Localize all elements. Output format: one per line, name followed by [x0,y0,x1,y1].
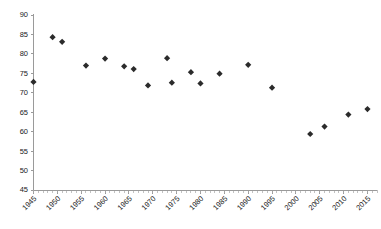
scatter-chart: 45505560657075808590 1945195019551960196… [0,0,381,229]
x-tick-label: 2010 [330,194,348,212]
data-point [307,131,313,137]
x-tick-label: 2005 [307,194,325,212]
x-tick-label: 1990 [235,194,253,212]
data-point [345,111,351,117]
x-tick-label: 2015 [354,194,372,212]
x-tick-label: 1965 [116,194,134,212]
data-point [59,39,65,45]
data-point [49,34,55,40]
data-markers [30,34,370,137]
data-point [83,62,89,68]
x-tick-label: 1985 [211,194,229,212]
y-tick-label: 60 [20,127,28,136]
y-tick-label: 50 [20,166,28,175]
x-tick-label: 1975 [163,194,181,212]
y-tick-label: 70 [20,88,28,97]
x-tick-label: 1960 [92,194,110,212]
data-point [102,55,108,61]
data-point [131,66,137,72]
x-tick-label: 1950 [44,194,62,212]
data-point [30,79,36,85]
data-point [145,82,151,88]
data-point [121,63,127,69]
x-tick-label: 2000 [283,194,301,212]
x-tick-label: 1945 [20,194,38,212]
y-tick-label: 85 [20,30,28,39]
y-tick-label: 80 [20,49,28,58]
x-tick-label: 1980 [187,194,205,212]
y-tick-label: 45 [20,185,28,194]
data-point [321,124,327,130]
data-point [364,106,370,112]
y-tick-label: 55 [20,147,28,156]
data-point [197,80,203,86]
data-point [269,85,275,91]
y-axis-labels: 45505560657075808590 [20,10,28,194]
y-tick-label: 90 [20,10,28,19]
plot-area: 45505560657075808590 1945195019551960196… [0,0,381,229]
x-axis-labels: 1945195019551960196519701975198019851990… [20,194,372,212]
x-tick-label: 1955 [68,194,86,212]
data-point [245,62,251,68]
y-tick-label: 75 [20,69,28,78]
data-point [188,69,194,75]
x-tick-label: 1970 [140,194,158,212]
data-point [216,71,222,77]
data-point [169,80,175,86]
data-point [164,55,170,61]
x-tick-label: 1995 [259,194,277,212]
y-tick-label: 65 [20,108,28,117]
